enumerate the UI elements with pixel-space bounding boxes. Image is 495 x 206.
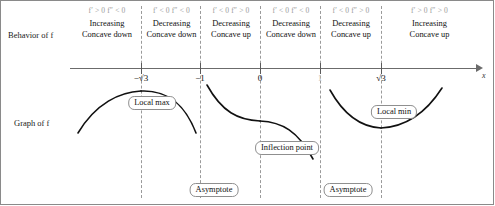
curve-segment-3 [207,85,260,121]
callout-asymptote-right[interactable]: Asymptote [324,183,373,197]
diagram-canvas: Behavior of f Graph of f f′ > 0 f″ < 0 f… [0,0,495,206]
graph-of-f-curve [0,0,495,206]
callout-local-max[interactable]: Local max [128,96,176,110]
callout-inflection-point[interactable]: Inflection point [255,141,319,155]
callout-local-min[interactable]: Local min [371,105,417,119]
callout-asymptote-left[interactable]: Asymptote [190,183,239,197]
